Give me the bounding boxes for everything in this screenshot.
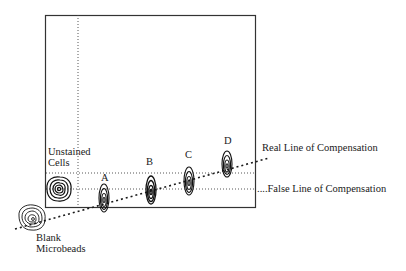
blank-microbeads-contour (19, 205, 45, 230)
plot-frame (46, 16, 256, 208)
population-c-contour (184, 167, 194, 195)
compensation-diagram (0, 0, 406, 271)
real-line-label: Real Line of Compensation (262, 142, 378, 153)
population-b-contour (146, 176, 156, 204)
real-compensation-line (15, 158, 269, 229)
population-b-label: B (146, 156, 153, 167)
population-c-label: C (185, 149, 192, 160)
population-a-label: A (101, 172, 109, 183)
blank-microbeads-label-line1: Blank (36, 232, 61, 243)
population-d-label: D (224, 135, 232, 146)
unstained-cells-label-line2: Cells (48, 157, 70, 168)
false-line-label: ....False Line of Compensation (257, 183, 386, 194)
blank-microbeads-label-line2: Microbeads (36, 243, 86, 254)
unstained-cells-label-line1: Unstained (48, 146, 91, 157)
